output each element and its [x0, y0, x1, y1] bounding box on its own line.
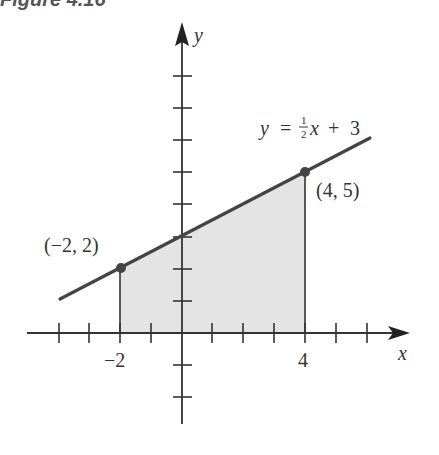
y-axis-label: y: [192, 24, 203, 47]
svg-text:=: =: [280, 117, 291, 139]
x-axis-label: x: [397, 342, 407, 364]
point-4-5: [300, 167, 310, 177]
svg-text:y: y: [258, 117, 269, 140]
tick-label-neg2: −2: [104, 349, 125, 371]
point-label-neg2-2: (−2, 2): [44, 234, 99, 257]
tick-label-4: 4: [298, 349, 308, 371]
svg-text:x: x: [309, 117, 319, 139]
equation-label: y = 1 2 x + 3: [258, 114, 360, 140]
svg-text:1: 1: [301, 114, 307, 126]
svg-text:3: 3: [350, 117, 360, 139]
point-neg2-2: [116, 263, 126, 273]
svg-text:+: +: [328, 117, 339, 139]
point-label-4-5: (4, 5): [316, 179, 359, 202]
svg-text:2: 2: [301, 128, 307, 140]
graph: y x y = 1 2 x + 3 (4, 5) (−2, 2) −2 4: [0, 0, 439, 455]
